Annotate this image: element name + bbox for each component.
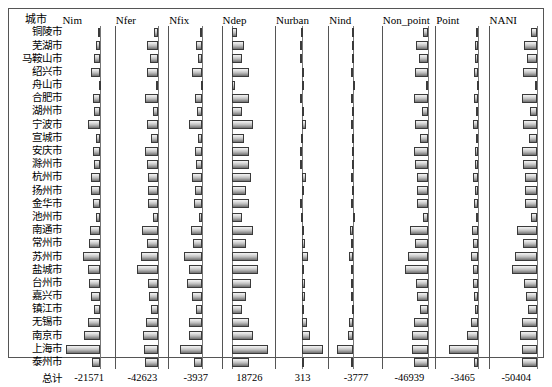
panel-nfix — [169, 66, 222, 79]
bar — [414, 147, 428, 156]
bar — [474, 358, 478, 367]
bar — [92, 358, 100, 367]
panel-nurban — [276, 263, 329, 276]
bar — [148, 173, 157, 182]
header-variable-label: Nind — [329, 14, 351, 26]
bar — [232, 265, 258, 274]
bar — [94, 305, 100, 314]
header-row: 城市NimNferNfixNdepNurbanNindNon_pointPoin… — [9, 9, 543, 26]
panel-nfer — [116, 329, 169, 342]
bar — [422, 107, 428, 116]
bar — [232, 279, 251, 288]
total-value-nfix: -3937 — [169, 369, 222, 387]
bar — [147, 239, 158, 248]
panel-zero-axis — [428, 263, 429, 276]
bar — [417, 173, 428, 182]
bar — [523, 239, 536, 248]
panel-zero-axis — [478, 184, 479, 197]
bar — [352, 41, 354, 50]
panel-non_point — [383, 263, 436, 276]
total-value-nurban: 313 — [276, 369, 329, 387]
bar — [137, 265, 157, 274]
bar — [512, 265, 536, 274]
panel-zero-axis — [158, 26, 159, 39]
panel-nfer — [116, 132, 169, 145]
bar — [196, 41, 201, 50]
row-label-city: 芜湖市 — [9, 39, 62, 52]
panel-zero-axis — [100, 263, 101, 276]
bar — [405, 265, 428, 274]
bar — [472, 226, 478, 235]
panel-zero-axis — [537, 250, 538, 263]
panel-nim — [62, 158, 115, 171]
header-variable-label: NANI — [490, 14, 518, 26]
bar — [522, 345, 536, 354]
panel-non_point — [383, 303, 436, 316]
bar — [423, 28, 428, 37]
panel-ndep — [223, 316, 276, 329]
panel-nani — [490, 329, 543, 342]
panel-nfer — [116, 39, 169, 52]
panel-ndep — [223, 26, 276, 39]
bar — [524, 279, 537, 288]
panel-zero-axis — [537, 39, 538, 52]
panel-zero-axis — [537, 316, 538, 329]
panel-nurban — [276, 303, 329, 316]
bar — [91, 173, 100, 182]
panel-zero-axis — [202, 118, 203, 131]
bar — [302, 305, 304, 314]
bar — [415, 160, 427, 169]
bar — [192, 292, 201, 301]
panel-ndep — [223, 263, 276, 276]
bar — [232, 331, 253, 340]
row-label-city: 台州市 — [9, 277, 62, 290]
panel-point — [436, 118, 489, 131]
panel-nind — [329, 26, 382, 39]
header-variable-label: Nfer — [116, 14, 136, 26]
panel-zero-axis — [158, 263, 159, 276]
panel-nind — [329, 118, 382, 131]
panel-zero-axis — [428, 145, 429, 158]
header-variable-nfix: Nfix — [169, 9, 222, 26]
panel-nind — [329, 343, 382, 356]
bar — [199, 213, 202, 222]
panel-zero-axis — [100, 211, 101, 224]
panel-non_point — [383, 66, 436, 79]
bar — [232, 41, 244, 50]
row-label-city: 嘉兴市 — [9, 290, 62, 303]
panel-nani — [490, 316, 543, 329]
header-variable-point: Point — [436, 9, 489, 26]
panel-nim — [62, 263, 115, 276]
panel-nim — [62, 92, 115, 105]
panel-zero-axis — [158, 224, 159, 237]
bar — [415, 239, 427, 248]
panel-nfer — [116, 145, 169, 158]
row-label-city: 宁波市 — [9, 118, 62, 131]
panel-zero-axis — [100, 145, 101, 158]
chart-row: 台州市 — [9, 277, 543, 290]
panel-zero-axis — [478, 356, 479, 369]
panel-zero-axis — [478, 277, 479, 290]
panel-zero-axis — [478, 52, 479, 65]
bar — [232, 345, 268, 354]
panel-ndep — [223, 197, 276, 210]
panel-zero-axis — [100, 277, 101, 290]
panel-nani — [490, 105, 543, 118]
row-label-city: 常州市 — [9, 237, 62, 250]
bar — [232, 318, 249, 327]
panel-nurban — [276, 224, 329, 237]
panel-grid: 城市NimNferNfixNdepNurbanNindNon_pointPoin… — [9, 9, 543, 387]
panel-nfer — [116, 79, 169, 92]
panel-nim — [62, 132, 115, 145]
panel-zero-axis — [537, 277, 538, 290]
panel-point — [436, 39, 489, 52]
bar — [528, 305, 536, 314]
panel-nind — [329, 263, 382, 276]
bar — [351, 239, 354, 248]
total-value-point: -3465 — [436, 369, 489, 387]
bar — [302, 68, 304, 77]
panel-zero-axis — [353, 316, 354, 329]
bar — [475, 41, 478, 50]
panel-zero-axis — [100, 66, 101, 79]
bar — [522, 94, 537, 103]
